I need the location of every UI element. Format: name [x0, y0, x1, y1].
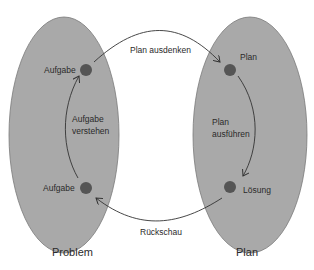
node-aufgabe-top	[80, 64, 92, 76]
label-aufgabe-verstehen-2: verstehen	[72, 126, 110, 136]
label-loesung: Lösung	[243, 185, 271, 195]
label-plan-ausdenken: Plan ausdenken	[130, 45, 191, 55]
node-aufgabe-bottom	[80, 182, 92, 194]
caption-plan: Plan	[236, 246, 258, 258]
node-loesung	[224, 181, 236, 193]
label-aufgabe-bottom: Aufgabe	[43, 183, 75, 193]
label-rueckschau: Rückschau	[140, 227, 182, 237]
diagram-canvas: Aufgabe Aufgabe Aufgabe verstehen Plan L…	[0, 0, 314, 270]
label-plan-node: Plan	[240, 52, 257, 62]
label-plan-ausfuehren-1: Plan	[212, 117, 229, 127]
node-plan	[224, 64, 236, 76]
label-aufgabe-top: Aufgabe	[44, 65, 76, 75]
label-aufgabe-verstehen-1: Aufgabe	[72, 114, 104, 124]
caption-problem: Problem	[52, 246, 93, 258]
label-plan-ausfuehren-2: ausführen	[212, 129, 250, 139]
